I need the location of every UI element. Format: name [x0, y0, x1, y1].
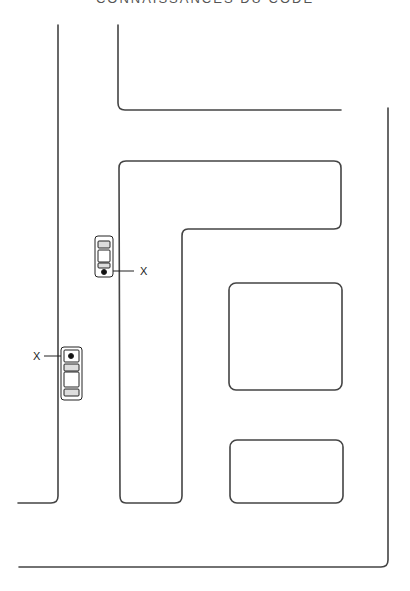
top-block [118, 25, 341, 110]
car-parked-right-side [95, 236, 113, 277]
left-curb [18, 25, 58, 503]
car-parked-left-side [61, 347, 82, 400]
bottom-block [230, 440, 343, 503]
outer-curb [19, 108, 388, 567]
marker-x-2: X [33, 350, 41, 362]
marker-x-1: X [140, 265, 148, 277]
street-map: X X [0, 0, 410, 591]
square-block [229, 283, 342, 390]
